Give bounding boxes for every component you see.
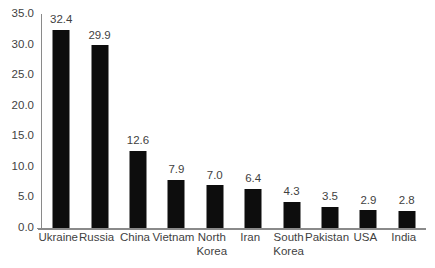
- bar-group: 3.5: [311, 14, 349, 228]
- bar-group: 2.8: [388, 14, 426, 228]
- y-axis-tick-label: 25.0: [12, 69, 34, 81]
- x-axis-category-label-line: Russia: [75, 231, 119, 245]
- bar-group: 12.6: [119, 14, 157, 228]
- x-axis-category-label: SouthKorea: [267, 231, 311, 258]
- x-axis-category-label: Russia: [75, 231, 119, 245]
- bar-value-label: 12.6: [127, 135, 149, 147]
- x-axis-category-label-line: USA: [343, 231, 387, 245]
- x-axis-category-label: NorthKorea: [190, 231, 234, 258]
- x-axis-category-label: Ukraine: [36, 231, 80, 245]
- y-axis-tick-label: 10.0: [12, 161, 34, 173]
- bar-value-label: 6.4: [245, 173, 261, 185]
- bar-value-label: 29.9: [88, 30, 110, 42]
- bar-value-label: 4.3: [284, 186, 300, 198]
- x-axis-category-label-line: North: [190, 231, 234, 245]
- bar-value-label: 7.9: [168, 164, 184, 176]
- y-axis-tick-label: 30.0: [12, 39, 34, 51]
- bar: [206, 185, 223, 228]
- bar-value-label: 2.8: [399, 195, 415, 207]
- x-axis-category-label: China: [113, 231, 157, 245]
- x-axis-category-label-line: Iran: [228, 231, 272, 245]
- bar: [91, 45, 108, 228]
- y-axis-tick-mark: [37, 228, 41, 229]
- x-axis-category-label: India: [382, 231, 426, 245]
- bar: [129, 151, 146, 228]
- x-axis-category-label: USA: [343, 231, 387, 245]
- x-axis-category-label-line: Korea: [267, 245, 311, 259]
- bar-value-label: 32.4: [50, 14, 72, 26]
- x-axis-category-label: Pakistan: [305, 231, 349, 245]
- x-axis-category-label-line: India: [382, 231, 426, 245]
- plot-area: 32.429.912.67.97.06.44.33.52.92.8: [42, 14, 426, 228]
- x-axis-category-label: Vietnam: [151, 231, 195, 245]
- bar-group: 4.3: [272, 14, 310, 228]
- y-axis-tick-label: 15.0: [12, 130, 34, 142]
- bar-value-label: 2.9: [360, 195, 376, 207]
- x-axis-category-label-line: Ukraine: [36, 231, 80, 245]
- bar: [283, 202, 300, 228]
- bar-group: 29.9: [80, 14, 118, 228]
- bar-group: 7.0: [196, 14, 234, 228]
- x-axis-category-label-line: Vietnam: [151, 231, 195, 245]
- bar-group: 6.4: [234, 14, 272, 228]
- bar: [398, 211, 415, 228]
- bar: [168, 180, 185, 228]
- bar: [245, 189, 262, 228]
- y-axis: 0.05.010.015.020.025.030.035.0: [0, 0, 38, 268]
- bar-group: 32.4: [42, 14, 80, 228]
- x-axis-category-label: Iran: [228, 231, 272, 245]
- y-axis-tick-label: 5.0: [18, 191, 34, 203]
- x-axis-category-label-line: South: [267, 231, 311, 245]
- y-axis-tick-label: 35.0: [12, 8, 34, 20]
- bar-group: 7.9: [157, 14, 195, 228]
- bar-group: 2.9: [349, 14, 387, 228]
- bar-value-label: 7.0: [207, 170, 223, 182]
- y-axis-tick-label: 0.0: [18, 222, 34, 234]
- bar: [360, 210, 377, 228]
- x-axis-category-label-line: Korea: [190, 245, 234, 259]
- bar-value-label: 3.5: [322, 191, 338, 203]
- bar: [321, 207, 338, 228]
- bar: [53, 30, 70, 228]
- x-axis: UkraineRussiaChinaVietnamNorthKoreaIranS…: [42, 231, 426, 268]
- bar-chart: 0.05.010.015.020.025.030.035.0 32.429.91…: [0, 0, 435, 268]
- x-axis-line: [38, 228, 426, 230]
- x-axis-category-label-line: China: [113, 231, 157, 245]
- y-axis-tick-label: 20.0: [12, 100, 34, 112]
- x-axis-category-label-line: Pakistan: [305, 231, 349, 245]
